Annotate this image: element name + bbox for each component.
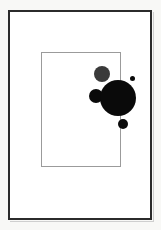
shape-layer bbox=[0, 0, 161, 230]
circle-black-large bbox=[100, 80, 136, 116]
circle-black-lower-small bbox=[118, 119, 128, 129]
artboard bbox=[0, 0, 161, 230]
dot-black-tiny bbox=[130, 76, 135, 81]
circle-gray-upper bbox=[94, 66, 110, 82]
